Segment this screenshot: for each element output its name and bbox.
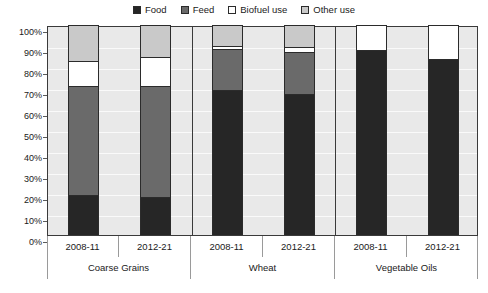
gridline — [48, 153, 477, 154]
legend-item-food: Food — [133, 5, 167, 15]
bar-segment[interactable] — [68, 25, 99, 61]
bar-segment[interactable] — [212, 49, 243, 90]
y-axis-tick-label: 80% — [0, 70, 42, 79]
y-axis-tick-label: 10% — [0, 217, 42, 226]
bar-segment[interactable] — [68, 195, 99, 235]
stacked-bar-chart: 0%10%20%30%40%50%60%70%80%90%100% 2008-1… — [0, 20, 488, 293]
period-label: 2008-11 — [47, 236, 119, 257]
legend-label: Food — [145, 5, 167, 15]
y-axis-tick-label: 50% — [0, 133, 42, 142]
y-axis-tick-label: 90% — [0, 49, 42, 58]
period-label: 2008-11 — [335, 236, 407, 257]
bar-segment[interactable] — [140, 57, 171, 86]
y-axis-tick-label: 60% — [0, 112, 42, 121]
gridline — [48, 132, 477, 133]
legend-item-other-use: Other use — [301, 5, 355, 15]
filled-square-icon — [181, 6, 189, 14]
gridline — [48, 174, 477, 175]
y-axis-tick-label: 0% — [0, 238, 42, 247]
chart-legend: Food Feed Biofuel use Other use — [0, 2, 488, 18]
bar-stack[interactable] — [140, 25, 171, 235]
bar-segment[interactable] — [140, 25, 171, 57]
category-axis: 2008-112012-212008-112012-212008-112012-… — [47, 236, 478, 280]
bar-stack[interactable] — [212, 25, 243, 235]
bar-stack[interactable] — [68, 25, 99, 235]
bar-segment[interactable] — [356, 25, 387, 50]
bar-stack[interactable] — [356, 25, 387, 235]
y-axis-tick-label: 30% — [0, 175, 42, 184]
gridline — [48, 69, 477, 70]
bar-segment[interactable] — [284, 94, 315, 235]
bar-segment[interactable] — [212, 90, 243, 235]
gridline — [48, 90, 477, 91]
group-divider — [335, 27, 336, 235]
legend-item-feed: Feed — [181, 5, 215, 15]
group-labels-row: Coarse GrainsWheatVegetable Oils — [47, 257, 478, 279]
y-axis-tick-label: 40% — [0, 154, 42, 163]
y-axis-tick-label: 20% — [0, 196, 42, 205]
group-label: Vegetable Oils — [335, 257, 478, 279]
plot-area — [47, 26, 478, 236]
bar-stack[interactable] — [284, 25, 315, 235]
period-labels-row: 2008-112012-212008-112012-212008-112012-… — [47, 236, 478, 257]
period-label: 2012-21 — [119, 236, 191, 257]
period-label: 2008-11 — [191, 236, 263, 257]
bar-segment[interactable] — [284, 25, 315, 47]
empty-square-icon — [301, 6, 309, 14]
legend-item-biofuel-use: Biofuel use — [228, 5, 287, 15]
filled-square-icon — [133, 6, 141, 14]
empty-square-icon — [228, 6, 236, 14]
bar-segment[interactable] — [284, 52, 315, 94]
bar-segment[interactable] — [212, 25, 243, 46]
period-label: 2012-21 — [263, 236, 335, 257]
period-label: 2012-21 — [407, 236, 478, 257]
y-axis-tick-label: 100% — [0, 28, 42, 37]
bar-segment[interactable] — [428, 59, 459, 235]
gridline — [48, 195, 477, 196]
gridline — [48, 48, 477, 49]
legend-label: Feed — [193, 5, 215, 15]
bar-segment[interactable] — [68, 86, 99, 195]
bar-segment[interactable] — [428, 25, 459, 59]
legend-label: Other use — [313, 5, 355, 15]
y-axis-tick-label: 70% — [0, 91, 42, 100]
group-label: Coarse Grains — [47, 257, 191, 279]
gridline — [48, 111, 477, 112]
bar-segment[interactable] — [140, 86, 171, 197]
gridline — [48, 216, 477, 217]
legend-label: Biofuel use — [240, 5, 287, 15]
bar-segment[interactable] — [356, 50, 387, 235]
group-label: Wheat — [191, 257, 335, 279]
bar-segment[interactable] — [140, 197, 171, 235]
group-divider — [192, 27, 193, 235]
bar-segment[interactable] — [68, 61, 99, 86]
bar-stack[interactable] — [428, 25, 459, 235]
